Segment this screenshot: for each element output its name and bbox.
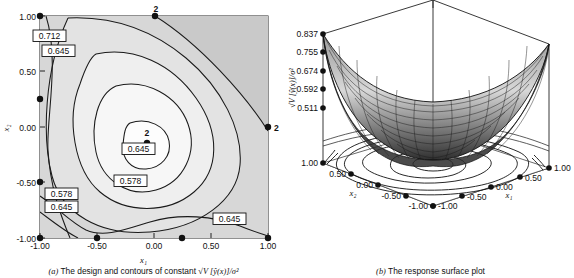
x2-tick-label: 1.00 <box>301 158 318 168</box>
contour-plot-svg: 2 2 2 0.712 0.645 0.645 0.578 0.5 <box>0 0 287 252</box>
x2-tick-point <box>403 193 409 199</box>
design-point-replicated <box>265 124 271 130</box>
contour-label-text: 0.578 <box>120 176 142 186</box>
x2-tick-label: 0.50 <box>329 169 346 179</box>
z-tick-label: 0.837 <box>296 29 318 39</box>
contour-label: 0.645 <box>122 143 155 155</box>
replicate-label: 2 <box>154 4 159 14</box>
x2-axis-label: x₂ <box>349 188 357 198</box>
panel-a-contour-plot: 2 2 2 0.712 0.645 0.645 0.578 0.5 <box>0 0 287 278</box>
y-tick-label: 0.50 <box>19 67 36 77</box>
x1-tick-point <box>546 165 552 171</box>
contour-label-text: 0.645 <box>48 46 70 56</box>
contour-label: 0.578 <box>114 175 147 187</box>
x1-axis-label: x₁ <box>505 190 513 200</box>
panel-b-surface-plot: 0.837 0.755 0.674 0.592 0.511 √V [ŷ(x)]/… <box>287 0 574 278</box>
panel-b-caption: (b) The response surface plot <box>287 266 574 276</box>
panel-b-caption-prefix: (b) <box>376 267 386 276</box>
z-axis-label: √V [ŷ(x)]/σ² <box>288 68 297 108</box>
x1-tick-point <box>517 174 523 180</box>
x2-tick-label: -1.00 <box>408 201 428 211</box>
y-tick-label: 0.00 <box>19 123 36 133</box>
contour-label: 0.645 <box>42 45 75 57</box>
panel-a-caption-formula: √V [ŷ(x)]/σ² <box>198 267 238 276</box>
contour-label: 0.645 <box>45 201 78 213</box>
z-tick-label: 0.511 <box>297 103 318 113</box>
panel-b-caption-text: The response surface plot <box>388 266 485 276</box>
z-tick-point <box>320 49 326 55</box>
contour-label: 0.578 <box>45 188 78 200</box>
contour-label-text: 0.578 <box>51 189 73 199</box>
design-point <box>37 96 43 102</box>
contour-label-text: 0.645 <box>219 214 241 224</box>
contour-label: 0.712 <box>33 30 66 42</box>
contour-label-text: 0.712 <box>39 31 61 41</box>
x2-tick-label: 0.00 <box>356 180 373 190</box>
x1-tick-label: -0.50 <box>467 192 487 202</box>
panel-a-caption-prefix: (a) <box>49 267 59 276</box>
contour-label: 0.645 <box>213 213 246 225</box>
panel-a-caption: (a) The design and contours of constant … <box>0 266 287 276</box>
replicate-label: 2 <box>145 128 150 138</box>
contour-label-text: 0.645 <box>51 202 73 212</box>
x1-tick-point <box>488 184 494 190</box>
design-point <box>179 235 185 241</box>
y-tick-label: -0.50 <box>16 178 36 188</box>
design-point <box>37 13 43 19</box>
panel-a-caption-text: The design and contours of constant <box>60 266 196 276</box>
x1-tick-label: 1.00 <box>554 163 571 173</box>
z-tick-label: 0.592 <box>296 84 318 94</box>
z-tick-point <box>320 86 326 92</box>
x2-tick-label: -0.50 <box>381 191 401 201</box>
x-axis-label: x₁ <box>140 255 147 265</box>
surface-plot-svg: 0.837 0.755 0.674 0.592 0.511 √V [ŷ(x)]/… <box>287 0 574 252</box>
x1-tick-point <box>459 193 465 199</box>
y-axis-label: x₂ <box>1 125 11 133</box>
y-tick-label: 1.00 <box>19 12 36 22</box>
z-tick-point <box>320 31 326 37</box>
x1-tick-label: 0.50 <box>525 173 542 183</box>
z-tick-point <box>320 68 326 74</box>
x2-tick-point <box>375 182 381 188</box>
x2-tick-point <box>348 171 354 177</box>
z-tick-point <box>320 105 326 111</box>
surface-mesh <box>323 34 549 167</box>
contour-label-text: 0.645 <box>128 144 150 154</box>
replicate-label: 2 <box>274 123 279 133</box>
x1-tick-point <box>430 203 436 209</box>
x1-tick-label: -1.00 <box>438 201 458 211</box>
z-tick-label: 0.755 <box>296 47 318 57</box>
design-point <box>37 179 43 185</box>
z-tick-label: 0.674 <box>296 66 318 76</box>
x2-tick-point <box>320 160 326 166</box>
